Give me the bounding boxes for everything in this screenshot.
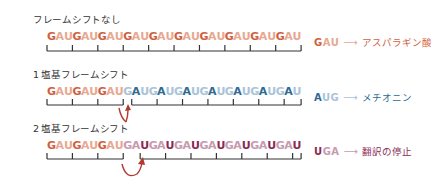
shift-arrow-icon [122,157,145,176]
shift-arrow-icon [119,104,131,122]
codon-brackets [0,0,448,189]
